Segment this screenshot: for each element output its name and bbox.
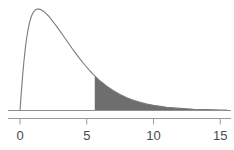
plot-area [0, 0, 234, 150]
x-axis-tick-label: 10 [139, 128, 169, 144]
x-axis-tick-label: 0 [5, 128, 35, 144]
x-axis-tick-label: 15 [205, 128, 234, 144]
shaded-tail-region [95, 76, 231, 111]
density-curve-chart: 051015 [0, 0, 234, 150]
x-axis-ticks [20, 119, 220, 125]
x-axis-tick-label: 5 [72, 128, 102, 144]
density-curve-line [20, 9, 227, 110]
x-axis [8, 119, 231, 125]
